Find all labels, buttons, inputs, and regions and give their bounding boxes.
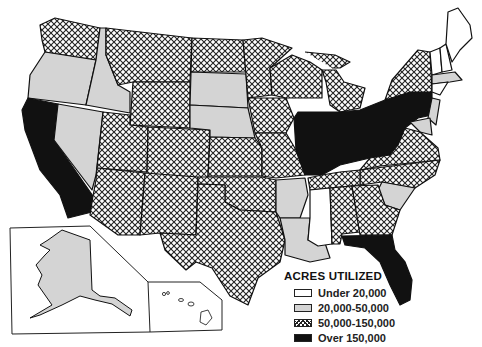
state-alaska <box>30 230 132 318</box>
state-oregon <box>28 52 96 105</box>
state-south-dakota <box>190 72 248 108</box>
state-kansas <box>208 137 262 176</box>
state-new-mexico <box>140 173 198 235</box>
state-new-york <box>385 50 432 100</box>
swatch-white <box>294 289 312 297</box>
hawaii-inset-frame <box>148 282 222 332</box>
state-arizona <box>90 168 145 235</box>
legend-item-20000-50000: 20,000-50,000 <box>294 300 474 315</box>
state-montana <box>106 28 192 85</box>
legend-label: Over 150,000 <box>318 332 386 344</box>
state-hawaii <box>162 292 212 325</box>
state-connecticut <box>432 82 448 95</box>
state-iowa <box>248 98 294 133</box>
swatch-crosshatch <box>294 319 312 327</box>
legend-item-50000-150000: 50,000-150,000 <box>294 315 474 330</box>
state-maine <box>446 8 472 62</box>
state-north-dakota <box>191 38 246 72</box>
legend-label: 20,000-50,000 <box>318 302 389 314</box>
swatch-gray <box>294 304 312 312</box>
state-mississippi <box>308 188 332 246</box>
legend-item-under-20000: Under 20,000 <box>294 285 474 300</box>
legend-label: 50,000-150,000 <box>318 317 395 329</box>
state-colorado <box>147 127 210 178</box>
legend: ACRES UTILIZED Under 20,000 20,000-50,00… <box>284 270 474 345</box>
state-wyoming <box>130 82 190 128</box>
legend-item-over-150000: Over 150,000 <box>294 330 474 345</box>
state-arkansas <box>276 178 308 218</box>
legend-label: Under 20,000 <box>318 287 386 299</box>
swatch-black <box>294 334 312 342</box>
legend-title: ACRES UTILIZED <box>284 270 474 282</box>
